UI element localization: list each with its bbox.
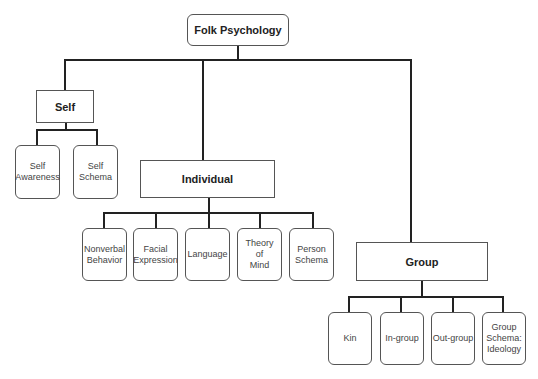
node-label: Person Schema (295, 244, 328, 266)
connector (410, 59, 412, 242)
connector (348, 296, 504, 298)
connector (155, 212, 157, 228)
node-theory-of-mind: Theory of Mind (237, 228, 282, 281)
node-person-schema: Person Schema (289, 228, 334, 281)
connector (259, 212, 261, 228)
connector (103, 212, 105, 228)
node-label: Group (406, 256, 439, 268)
node-label: Facial Expression (133, 244, 178, 266)
node-label: Group Schema: Ideology (486, 322, 522, 355)
connector (36, 129, 38, 145)
connector (348, 296, 350, 312)
node-label: In-group (385, 333, 419, 344)
node-kin: Kin (328, 312, 372, 365)
node-label: Out-group (433, 333, 474, 344)
node-label: Self (55, 101, 75, 113)
connector (96, 129, 98, 145)
node-language: Language (185, 228, 230, 281)
connector (452, 296, 454, 312)
node-label: Self Schema (79, 161, 112, 183)
connector (237, 46, 239, 60)
node-out-group: Out-group (431, 312, 475, 365)
node-label: Language (187, 249, 227, 260)
node-label: Nonverbal Behavior (84, 244, 125, 266)
connector (208, 212, 210, 228)
connector (312, 212, 314, 228)
node-label: Folk Psychology (194, 24, 281, 36)
connector (208, 198, 210, 213)
connector (421, 281, 423, 297)
connector (400, 296, 402, 312)
connector (64, 59, 412, 61)
node-in-group: In-group (380, 312, 424, 365)
node-individual: Individual (140, 160, 275, 198)
connector (202, 59, 204, 160)
connector (36, 129, 98, 131)
node-self: Self (36, 90, 94, 123)
node-group-schema-ideology: Group Schema: Ideology (482, 312, 526, 365)
node-label: Self Awareness (15, 161, 59, 183)
node-self-schema: Self Schema (73, 145, 118, 199)
node-group: Group (356, 242, 488, 281)
node-folk-psychology: Folk Psychology (187, 14, 289, 46)
connector (502, 296, 504, 312)
node-label: Kin (343, 333, 356, 344)
node-label: Individual (182, 173, 233, 185)
node-nonverbal-behavior: Nonverbal Behavior (82, 228, 127, 281)
connector (64, 59, 66, 90)
node-label: Theory of Mind (245, 238, 273, 271)
node-facial-expression: Facial Expression (133, 228, 178, 281)
node-self-awareness: Self Awareness (15, 145, 60, 199)
